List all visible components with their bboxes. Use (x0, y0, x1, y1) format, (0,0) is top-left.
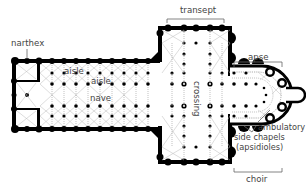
label-transept: transept (180, 5, 217, 15)
label-nave: nave (90, 93, 111, 103)
label-aisle-inner: aisle (91, 76, 111, 86)
label-apse: apse (248, 52, 269, 62)
label-apsidioles: (apsidioles) (236, 142, 283, 152)
narthex-block (11, 57, 43, 133)
label-narthex: narthex (11, 38, 44, 48)
choir-apse-block (230, 58, 305, 132)
label-side-chapels: side chapels (234, 132, 285, 142)
cathedral-floor-plan: narthex transept aisle aisle nave crossi… (0, 0, 306, 189)
bracket-choir (234, 168, 282, 172)
label-crossing: crossing (192, 81, 202, 117)
label-choir: choir (246, 174, 268, 184)
bracket-transept (167, 19, 224, 23)
label-aisle-outer: aisle (64, 66, 84, 76)
label-ambulatory: ambulatory (258, 122, 305, 132)
